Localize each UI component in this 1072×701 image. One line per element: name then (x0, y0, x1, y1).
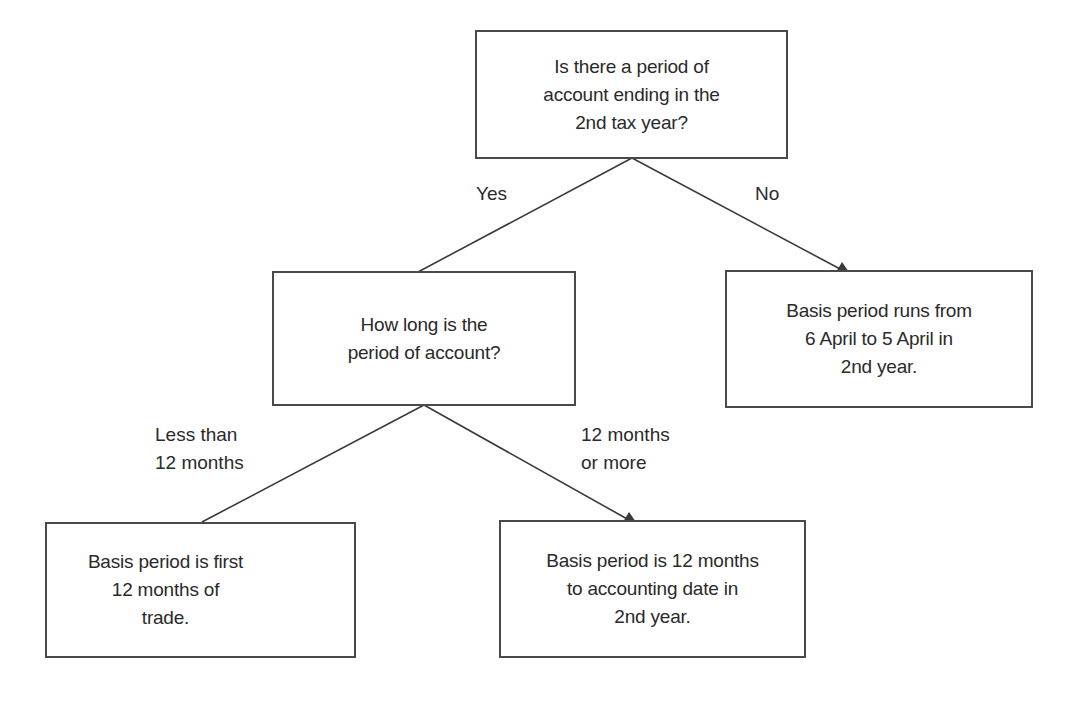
edge-label-yes: Yes (476, 180, 507, 208)
node-long-result: Basis period is 12 months to accounting … (499, 520, 806, 658)
edge-yes-line (418, 158, 632, 272)
node-text: Is there a period of (554, 53, 708, 81)
edge-label-text: Yes (476, 180, 507, 208)
edge-label-text: Less than (155, 421, 244, 449)
node-text: Basis period is first (88, 548, 243, 576)
node-length-question: How long is the period of account? (272, 271, 576, 406)
edge-label-text: 12 months (581, 421, 670, 449)
node-text: How long is the (361, 311, 488, 339)
edge-label-no: No (755, 180, 779, 208)
edge-label-text: No (755, 180, 779, 208)
node-text: 12 months of (112, 576, 219, 604)
node-text: period of account? (348, 339, 501, 367)
node-text: account ending in the (543, 81, 719, 109)
node-text: to accounting date in (567, 575, 738, 603)
edge-label-less-than: Less than 12 months (155, 421, 244, 477)
node-text: trade. (142, 604, 189, 632)
edge-label-more-than: 12 months or more (581, 421, 670, 477)
node-text: 2nd tax year? (575, 109, 688, 137)
node-text: Basis period is 12 months (546, 547, 759, 575)
node-text: Basis period runs from (786, 297, 972, 325)
node-text: 2nd year. (614, 603, 690, 631)
node-short-result: Basis period is first 12 months of trade… (45, 522, 356, 658)
edge-label-text: or more (581, 449, 670, 477)
node-text: 2nd year. (841, 353, 917, 381)
node-root-question: Is there a period of account ending in t… (475, 30, 788, 159)
edge-no-line (632, 158, 842, 270)
node-text: 6 April to 5 April in (805, 325, 953, 353)
edge-label-text: 12 months (155, 449, 244, 477)
node-no-result: Basis period runs from 6 April to 5 Apri… (725, 270, 1033, 408)
